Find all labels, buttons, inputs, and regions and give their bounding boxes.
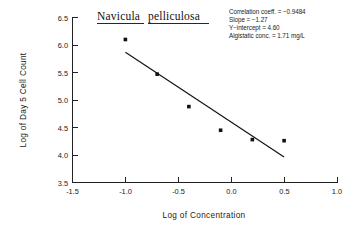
x-tick-label--0.5: -0.5 xyxy=(172,187,185,196)
y-tick-label-6.5: 6.5 xyxy=(58,14,68,23)
chart-canvas: Navicula pelliculosa Correlation coeff. … xyxy=(0,0,362,228)
data-point xyxy=(219,128,223,132)
chart-title-word-2: pelliculosa xyxy=(148,10,200,23)
regression-fit-line xyxy=(125,52,284,157)
x-tick-label-0.5: 0.5 xyxy=(279,187,289,196)
data-point xyxy=(251,138,255,142)
x-axis-title: Log of Concentration xyxy=(162,211,245,220)
statistics-annotation-block: Correlation coeff. = −0.9484 Slope = −1.… xyxy=(229,8,306,40)
stat-algistatic-concentration: Algistatic conc. = 1.71 mg/L xyxy=(229,32,305,40)
x-tick-label-0.0: 0.0 xyxy=(226,187,236,196)
y-tick-label-5.5: 5.5 xyxy=(58,69,68,78)
data-point xyxy=(282,139,286,143)
y-tick-label-4.5: 4.5 xyxy=(58,124,68,133)
chart-title-word-1: Navicula xyxy=(97,10,140,22)
y-tick-label-6.0: 6.0 xyxy=(58,41,68,50)
y-axis-title: Log of Day 5 Cell Count xyxy=(19,52,28,147)
x-axis-tick-labels: -1.5 -1.0 -0.5 0.0 0.5 1.0 xyxy=(66,187,342,196)
x-axis-ticks xyxy=(73,177,338,183)
y-axis-ticks xyxy=(73,18,79,183)
y-tick-label-5.0: 5.0 xyxy=(58,96,68,105)
data-point-series xyxy=(124,38,286,143)
y-tick-label-4.0: 4.0 xyxy=(58,151,68,160)
x-tick-label--1.5: -1.5 xyxy=(66,187,79,196)
data-point xyxy=(155,72,159,76)
data-point xyxy=(124,38,128,42)
x-tick-label-1.0: 1.0 xyxy=(332,187,342,196)
y-axis-tick-labels: 6.5 6.0 5.5 5.0 4.5 4.0 3.5 xyxy=(58,14,68,188)
stat-correlation-coefficient: Correlation coeff. = −0.9484 xyxy=(229,8,306,15)
chart-figure: Navicula pelliculosa Correlation coeff. … xyxy=(0,0,362,228)
stat-slope: Slope = −1.27 xyxy=(229,16,268,24)
stat-y-intercept: Y−intercept = 4.60 xyxy=(229,24,280,32)
x-tick-label--1.0: -1.0 xyxy=(119,187,132,196)
data-point xyxy=(187,105,191,109)
